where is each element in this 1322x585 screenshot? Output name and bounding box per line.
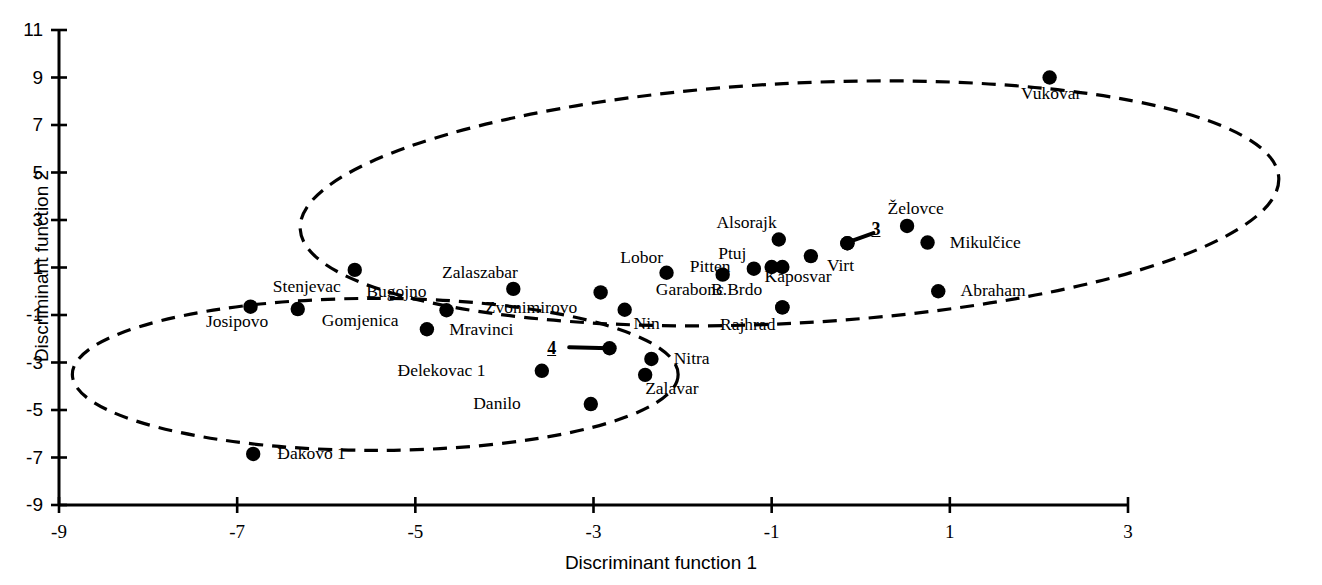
point-label: Danilo	[473, 395, 521, 413]
discriminant-scatter-figure: JosipovoStenjevacGomjenicaBugojnoMravinc…	[0, 0, 1322, 585]
x-tick-label: -3	[586, 521, 602, 543]
data-point[interactable]	[920, 235, 934, 249]
y-tick-label: 9	[0, 67, 43, 89]
data-point[interactable]	[584, 397, 598, 411]
data-point[interactable]	[840, 236, 854, 250]
point-label: Stenjevac	[273, 278, 341, 296]
point-label: Nin	[634, 315, 660, 333]
point-label: Alsorajk	[716, 214, 776, 232]
point-label: Đakovo 1	[277, 445, 346, 463]
x-axis-title: Discriminant function 1	[0, 552, 1322, 574]
point-label: Kaposvar	[765, 268, 832, 286]
data-point[interactable]	[439, 303, 453, 317]
data-point[interactable]	[644, 352, 658, 366]
y-tick-label: 11	[0, 19, 43, 41]
x-tick-label: 1	[945, 521, 955, 543]
point-label: 3	[871, 220, 880, 238]
point-label: Zalavar	[645, 380, 698, 398]
data-point[interactable]	[804, 249, 818, 263]
point-label: Rajhrad	[720, 316, 775, 334]
point-label: Mikulčice	[950, 234, 1021, 252]
data-point[interactable]	[506, 282, 520, 296]
point-label: Zalaszabar	[442, 264, 518, 282]
point-label: Zvonimirovo	[485, 299, 577, 317]
data-point[interactable]	[659, 266, 673, 280]
point-label: Nitra	[674, 350, 710, 368]
y-tick-label: -7	[0, 447, 43, 469]
data-point[interactable]	[593, 285, 607, 299]
point-label: Vukovar	[1021, 85, 1081, 103]
data-point[interactable]	[420, 322, 434, 336]
data-point[interactable]	[246, 447, 260, 461]
point-label: Lobor	[620, 249, 663, 267]
y-axis-title: Discriminant function 2	[31, 106, 53, 426]
y-tick-label: -9	[0, 494, 43, 516]
point-label: Gomjenica	[322, 312, 399, 330]
point-label: Bugojno	[366, 283, 426, 301]
point-label: Ptuj	[718, 245, 746, 263]
x-tick-label: 3	[1123, 521, 1133, 543]
point-label: B.Brdo	[711, 281, 762, 299]
point-label: Josipovo	[206, 313, 268, 331]
data-point[interactable]	[772, 232, 786, 246]
point-label: Virt	[827, 257, 854, 275]
point-label: Abraham	[961, 282, 1026, 300]
point-label: Želovce	[887, 200, 943, 218]
axes-layer	[51, 30, 1128, 513]
x-tick-label: -5	[407, 521, 423, 543]
x-tick-label: -9	[51, 521, 67, 543]
data-point[interactable]	[291, 302, 305, 316]
x-tick-label: -1	[764, 521, 780, 543]
data-point[interactable]	[747, 261, 761, 275]
data-point[interactable]	[775, 300, 789, 314]
point-label: Đelekovac 1	[398, 362, 486, 380]
point-label: 4	[547, 339, 556, 357]
data-point[interactable]	[931, 284, 945, 298]
label-leader-line	[850, 233, 873, 241]
x-tick-label: -7	[229, 521, 245, 543]
data-point[interactable]	[602, 341, 616, 355]
data-point[interactable]	[900, 219, 914, 233]
data-point[interactable]	[348, 263, 362, 277]
data-point[interactable]	[535, 364, 549, 378]
data-point[interactable]	[617, 303, 631, 317]
point-label: Mravinci	[449, 321, 513, 339]
